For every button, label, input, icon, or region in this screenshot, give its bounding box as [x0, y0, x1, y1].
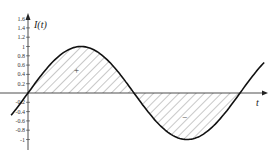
svg-text:-0.8: -0.8 — [16, 127, 26, 133]
svg-text:1.6: 1.6 — [18, 16, 26, 22]
y-axis-arrow-icon — [26, 13, 31, 20]
svg-text:1.4: 1.4 — [18, 25, 26, 31]
svg-text:0.8: 0.8 — [18, 53, 26, 59]
svg-text:-0.4: -0.4 — [16, 109, 26, 115]
y-axis-label: I(t) — [33, 19, 47, 31]
svg-text:-1: -1 — [20, 137, 25, 143]
svg-text:0.2: 0.2 — [18, 81, 26, 87]
svg-text:0.4: 0.4 — [18, 71, 26, 77]
svg-text:1: 1 — [22, 44, 25, 50]
minus-annotation: − — [182, 112, 187, 122]
sine-chart: 1.61.41.210.80.60.40.2-0.2-0.4-0.6-0.8-1… — [0, 0, 273, 162]
svg-text:0.6: 0.6 — [18, 62, 26, 68]
plus-annotation: + — [74, 65, 79, 75]
svg-text:-0.6: -0.6 — [16, 118, 26, 124]
x-axis-arrow-icon — [262, 91, 268, 96]
svg-text:1.2: 1.2 — [18, 34, 26, 40]
x-axis-label: t — [256, 97, 259, 108]
